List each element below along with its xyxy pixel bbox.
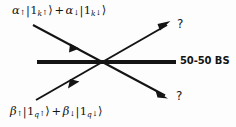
top-amplitude-1-symbol: α	[12, 3, 20, 17]
direction-arrowhead-top-input	[69, 44, 80, 53]
bottom-ket-2-number: 1	[80, 104, 87, 118]
input-state-bottom-label: β↑|1q↑⟩+β↓|1q↓⟩	[10, 106, 103, 118]
beam-splitter-diagram: α↑|1k↑⟩+α↓|1k↓⟩ β↑|1q↑⟩+β↓|1q↓⟩ 50-50 BS…	[0, 0, 236, 127]
top-ket-1-spin: ↑	[42, 9, 48, 17]
bottom-amplitude-1-spin: ↑	[17, 110, 23, 118]
bottom-amplitude-1-symbol: β	[10, 104, 17, 118]
input-state-top-label: α↑|1k↑⟩+α↓|1k↓⟩	[12, 5, 107, 17]
bottom-operator: +	[50, 104, 63, 118]
top-ket-2-number: 1	[84, 3, 91, 17]
output-top-question-mark: ?	[177, 18, 183, 30]
top-operator: +	[53, 3, 66, 17]
beam-splitter-label: 50-50 BS	[180, 56, 230, 66]
bottom-ket-2-spin: ↓	[92, 110, 98, 118]
bottom-ket-2-close: ⟩	[98, 104, 103, 118]
output-bottom-question-mark: ?	[176, 90, 182, 102]
top-amplitude-1-spin: ↑	[20, 9, 26, 17]
top-ket-2-close: ⟩	[101, 3, 106, 17]
direction-arrowhead-bottom-input	[68, 79, 80, 89]
